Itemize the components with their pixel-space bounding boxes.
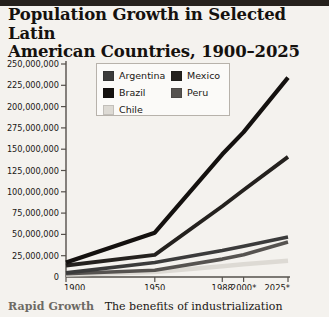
legend-label: Mexico: [187, 71, 220, 81]
y-axis-tick-label: 225,000,000: [7, 80, 59, 90]
y-axis-tick-label: 100,000,000: [7, 187, 59, 197]
y-axis-tick-label: 275,000,000: [7, 123, 59, 133]
caption-text: The benefits of industrialization: [105, 300, 283, 313]
y-axis-tick-label: 25,000,000: [12, 251, 59, 261]
x-axis-tick-label: 2025*: [264, 283, 290, 290]
y-axis-tick-label: 50,000,000: [12, 229, 59, 239]
title-block: Population Growth in Selected Latin Amer…: [8, 6, 323, 62]
x-axis-tick-labels: 1900195019882000*2025*: [64, 283, 290, 290]
x-axis-tick-marks: [66, 277, 288, 282]
legend-item-argentina: Argentina: [103, 68, 165, 84]
x-axis-tick-label: 2000*: [231, 283, 257, 290]
legend-column-right: MexicoPeru: [171, 68, 220, 102]
y-axis-tick-label: 250,000,000: [7, 59, 59, 69]
y-axis-tick-label: 200,000,000: [7, 102, 59, 112]
legend-label: Brazil: [119, 88, 146, 98]
caption-lead: Rapid Growth: [8, 300, 94, 313]
y-axis-tick-marks: [61, 64, 66, 256]
legend-swatch-mexico: [171, 71, 182, 81]
legend-column-left: ArgentinaBrazilChile: [103, 68, 165, 119]
legend-label: Peru: [187, 88, 208, 98]
y-axis-tick-label: 0: [54, 272, 59, 282]
legend-label: Chile: [119, 105, 143, 115]
caption: Rapid Growth The benefits of industriali…: [8, 300, 326, 313]
y-axis-tick-label: 150,000,000: [7, 144, 59, 154]
chart-figure: Population Growth in Selected Latin Amer…: [0, 0, 329, 317]
legend-item-chile: Chile: [103, 102, 165, 118]
y-axis-tick-label: 125,000,000: [7, 166, 59, 176]
legend-item-mexico: Mexico: [171, 68, 220, 84]
legend-swatch-chile: [103, 105, 114, 115]
page-title: Population Growth in Selected Latin Amer…: [8, 6, 323, 62]
legend-swatch-argentina: [103, 71, 114, 81]
legend-label: Argentina: [119, 71, 165, 81]
chart-legend: ArgentinaBrazilChile MexicoPeru: [96, 63, 230, 116]
legend-item-peru: Peru: [171, 85, 220, 101]
y-axis-tick-label: 75,000,000: [12, 208, 59, 218]
legend-item-brazil: Brazil: [103, 85, 165, 101]
x-axis-tick-label: 1900: [64, 283, 85, 290]
x-axis-tick-label: 1950: [144, 283, 165, 290]
y-axis-tick-labels: 250,000,000225,000,000200,000,000275,000…: [7, 59, 59, 282]
x-axis-tick-label: 1988: [212, 283, 233, 290]
legend-swatch-brazil: [103, 88, 114, 98]
legend-swatch-peru: [171, 88, 182, 98]
